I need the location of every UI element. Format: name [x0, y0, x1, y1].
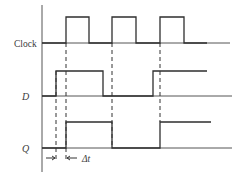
q-label: Q [22, 143, 30, 154]
delta-t-arrow-right [67, 156, 77, 160]
clock-label: Clock [14, 39, 37, 49]
d-label: D [21, 91, 30, 102]
clock-waveform [42, 17, 207, 43]
delta-t-arrow-left [46, 156, 55, 160]
d-waveform [42, 71, 207, 96]
delta-t-label: Δt [81, 154, 91, 164]
timing-diagram: Clock D Q Δt [0, 0, 251, 179]
q-waveform [42, 122, 211, 148]
